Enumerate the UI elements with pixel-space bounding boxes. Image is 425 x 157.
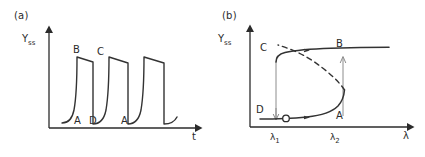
- panel-a: (a) Yss t B C A D A: [0, 0, 212, 157]
- panel-b: (b) Yss λ C B D A λ1 λ2: [212, 0, 425, 157]
- panel-a-plot: [0, 0, 212, 157]
- figure-root: (a) Yss t B C A D A (b) Yss λ C B D: [0, 0, 425, 157]
- panel-b-open-circle-marker: [283, 115, 290, 122]
- panel-b-plot: [212, 0, 425, 157]
- panel-b-upper-stable-branch: [276, 47, 389, 62]
- panel-b-lower-stable-branch: [260, 90, 345, 119]
- panel-a-oscillation-curve: [62, 57, 177, 124]
